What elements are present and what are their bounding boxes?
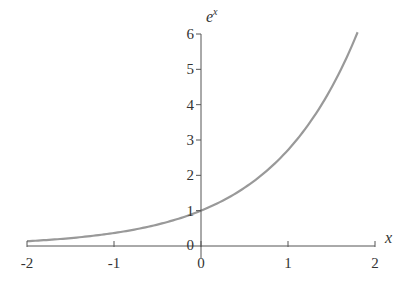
y-tick-label: 6 xyxy=(187,26,195,42)
y-tick-label: 1 xyxy=(187,203,195,219)
y-tick-label: 4 xyxy=(187,97,195,113)
x-axis-label: x xyxy=(384,229,392,246)
x-tick-label: 0 xyxy=(197,255,205,271)
exponential-chart: -2-1012 0123456 x ex xyxy=(0,0,411,283)
y-tick-label: 0 xyxy=(187,237,195,253)
y-tick-label: 5 xyxy=(187,61,195,77)
x-tick-label: 1 xyxy=(284,255,292,271)
y-axis-label: ex xyxy=(206,6,218,25)
y-tick-label: 3 xyxy=(187,132,195,148)
y-tick-label: 2 xyxy=(187,167,195,183)
x-tick-label: 2 xyxy=(371,255,379,271)
x-tick-label: -2 xyxy=(21,255,34,271)
y-axis-label-superscript: x xyxy=(212,6,218,17)
y-axis-label-base: e xyxy=(206,8,213,25)
x-tick-label: -1 xyxy=(108,255,121,271)
y-axis-ticks: 0123456 xyxy=(187,26,202,253)
